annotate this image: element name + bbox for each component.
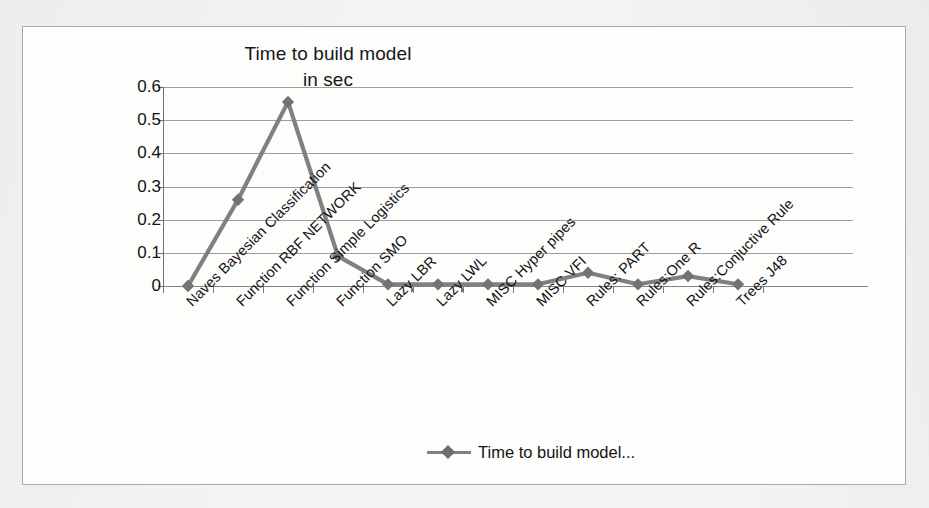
legend-label: Time to build model...	[478, 443, 635, 462]
x-category-label: MISC Hyper pipes	[483, 214, 579, 310]
chart-legend: Time to build model...	[427, 441, 635, 463]
x-category-label: Lazy LWL	[433, 253, 490, 310]
plot-area: 0.60.50.40.30.20.10 Naves Bayesian Class…	[23, 27, 907, 486]
chart-frame: Time to build model in sec 0.60.50.40.30…	[22, 26, 906, 485]
x-axis-category-labels: Naves Bayesian ClassificationFunction RB…	[23, 27, 907, 486]
legend-marker-icon	[427, 446, 471, 458]
page-background: Time to build model in sec 0.60.50.40.30…	[0, 0, 929, 508]
